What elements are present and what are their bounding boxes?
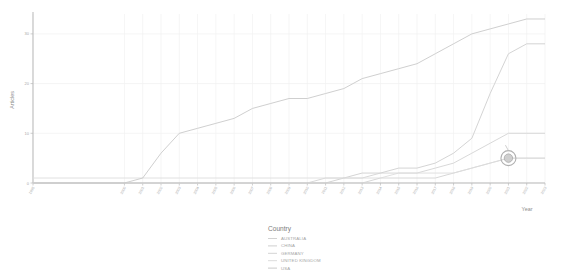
legend-item-usa[interactable]: USA bbox=[281, 266, 290, 271]
legend: Country AUSTRALIACHINAGERMANYUNITED KING… bbox=[268, 225, 321, 271]
x-tick-label: 2018 bbox=[449, 186, 456, 195]
legend-item-australia[interactable]: AUSTRALIA bbox=[281, 236, 306, 241]
x-tick-label: 2020 bbox=[485, 186, 492, 195]
x-tick-label: 2000 bbox=[120, 186, 127, 195]
legend-item-united-kingdom[interactable]: UNITED KINGDOM bbox=[281, 258, 321, 263]
x-tick-label: 2016 bbox=[412, 186, 419, 195]
legend-item-china[interactable]: CHINA bbox=[281, 243, 295, 248]
x-axis-ticks: 1995200020012002200320042005200620072008… bbox=[28, 183, 547, 195]
x-tick-label: 2014 bbox=[376, 186, 383, 195]
x-tick-label: 2013 bbox=[357, 186, 364, 195]
y-tick-label: 20 bbox=[25, 81, 30, 86]
x-tick-label: 2023 bbox=[540, 186, 547, 195]
x-tick-label: 2007 bbox=[248, 186, 255, 195]
x-tick-label: 2012 bbox=[339, 186, 346, 195]
x-tick-label: 2011 bbox=[321, 186, 328, 195]
x-tick-label: 2008 bbox=[266, 186, 273, 195]
x-tick-label: 2001 bbox=[138, 186, 145, 195]
x-tick-label: 1995 bbox=[28, 186, 35, 195]
y-axis-ticks: 0102030 bbox=[25, 31, 33, 185]
chart-canvas: 0102030 19952000200120022003200420052006… bbox=[0, 0, 573, 280]
y-axis-title: Articles bbox=[9, 91, 15, 109]
x-tick-label: 2010 bbox=[302, 186, 309, 195]
x-tick-label: 2002 bbox=[156, 186, 163, 195]
line-chart: 0102030 19952000200120022003200420052006… bbox=[0, 0, 573, 280]
y-tick-label: 0 bbox=[27, 181, 30, 186]
x-tick-label: 2022 bbox=[522, 186, 529, 195]
x-tick-label: 2005 bbox=[211, 186, 218, 195]
x-tick-label: 2009 bbox=[284, 186, 291, 195]
x-tick-label: 2019 bbox=[467, 186, 474, 195]
y-tick-label: 30 bbox=[25, 31, 30, 36]
x-tick-label: 2003 bbox=[174, 186, 181, 195]
x-tick-label: 2017 bbox=[430, 186, 437, 195]
legend-title: Country bbox=[268, 225, 292, 233]
x-tick-label: 2004 bbox=[193, 186, 200, 195]
x-tick-label: 2006 bbox=[229, 186, 236, 195]
legend-item-germany[interactable]: GERMANY bbox=[281, 251, 304, 256]
y-tick-label: 10 bbox=[25, 131, 30, 136]
x-tick-label: 2021 bbox=[504, 186, 511, 195]
x-tick-label: 2015 bbox=[394, 186, 401, 195]
legend-items: AUSTRALIACHINAGERMANYUNITED KINGDOMUSA bbox=[268, 236, 321, 271]
x-axis-title: Year bbox=[522, 206, 533, 212]
